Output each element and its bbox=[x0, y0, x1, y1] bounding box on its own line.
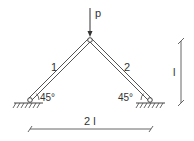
angle-label-right: 45° bbox=[118, 92, 133, 103]
angle-arc-left bbox=[36, 94, 39, 100]
left-pin-support bbox=[13, 94, 43, 108]
apex-pin-joint bbox=[88, 38, 93, 43]
height-dimension bbox=[178, 38, 184, 106]
span-label: 2 l bbox=[84, 115, 96, 127]
height-label: l bbox=[173, 66, 175, 78]
load-label: p bbox=[95, 7, 101, 19]
load-arrow bbox=[88, 8, 93, 37]
truss-diagram: p 45° 45° 1 2 bbox=[0, 0, 194, 141]
angle-arc-right bbox=[141, 94, 144, 100]
angle-label-left: 45° bbox=[40, 92, 55, 103]
member-2-label: 2 bbox=[124, 61, 130, 73]
member-1 bbox=[28, 38, 91, 100]
member-2 bbox=[89, 38, 152, 100]
member-1-label: 1 bbox=[51, 61, 57, 73]
right-pin-support bbox=[136, 94, 165, 108]
